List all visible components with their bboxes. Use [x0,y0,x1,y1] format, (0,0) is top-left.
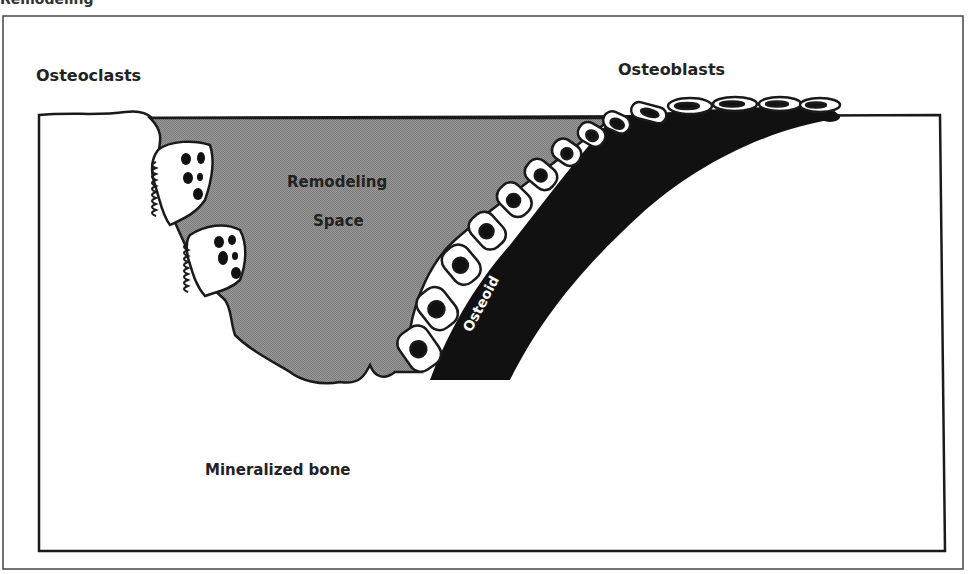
bone-remodeling-diagram: Osteoclasts Osteoblasts Remodeling Space… [0,0,969,574]
label-space: Space [313,212,364,230]
label-mineralized-bone: Mineralized bone [205,461,350,479]
label-remodeling: Remodeling [287,173,387,191]
label-osteoblasts: Osteoblasts [618,60,725,79]
label-osteoclasts: Osteoclasts [36,66,141,85]
